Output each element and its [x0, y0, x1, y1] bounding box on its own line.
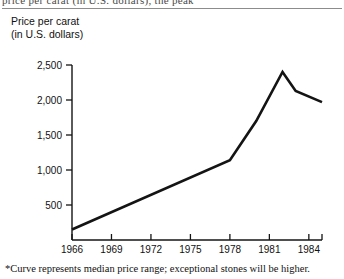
- y-tick-label-2000: 2,000: [20, 95, 62, 106]
- chart-plot-area: 2,500 2,000 1,500 1,000 500 1966 1969 19…: [0, 0, 344, 279]
- x-tick-label-1972: 1972: [134, 244, 168, 255]
- y-tick-label-500: 500: [20, 200, 62, 211]
- y-tick-label-1500: 1,500: [20, 130, 62, 141]
- x-tick-label-1981: 1981: [252, 244, 286, 255]
- price-per-carat-curve: [72, 72, 322, 230]
- x-tick-label-1978: 1978: [213, 244, 247, 255]
- y-tick-label-1000: 1,000: [20, 165, 62, 176]
- x-tick-label-1969: 1969: [94, 244, 128, 255]
- x-tick-label-1966: 1966: [55, 244, 89, 255]
- x-tick-label-1975: 1975: [173, 244, 207, 255]
- y-axis-ticks: [66, 65, 72, 205]
- y-tick-label-2500: 2,500: [20, 60, 62, 71]
- x-axis-ticks: [72, 234, 322, 240]
- x-tick-label-1984: 1984: [292, 244, 326, 255]
- chart-footnote: *Curve represents median price range; ex…: [5, 263, 310, 274]
